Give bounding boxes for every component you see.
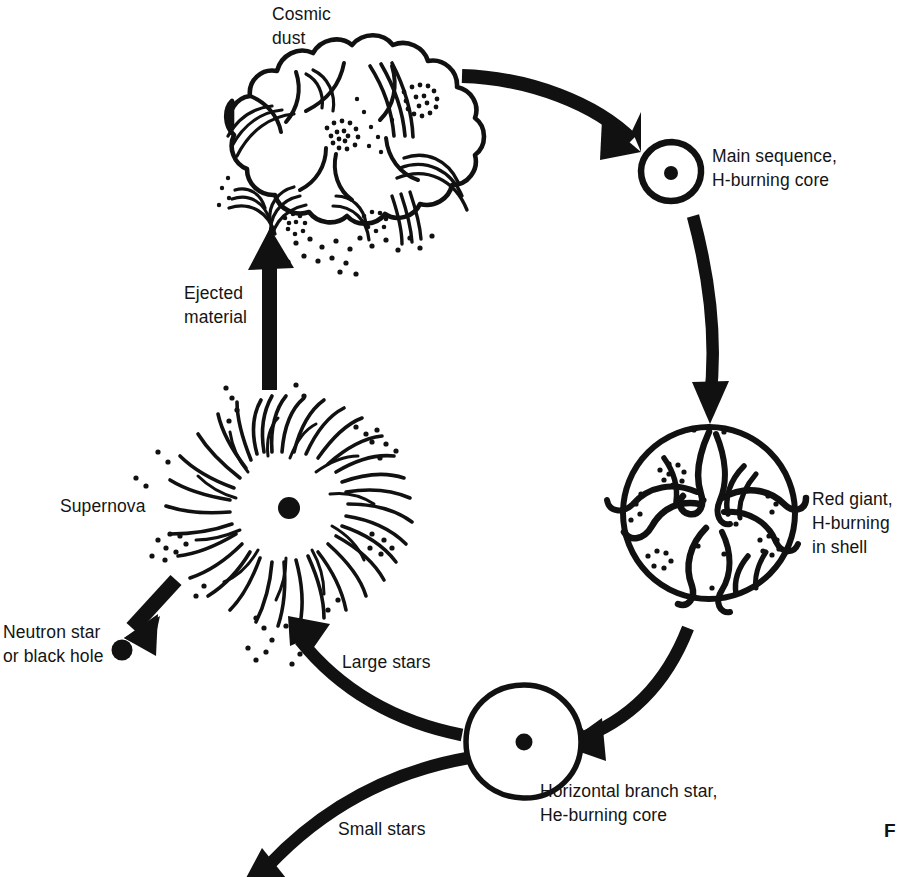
label-horizontal-branch: Horizontal branch star, He-burning core [540,779,717,827]
label-ejected-material: Ejected material [184,281,247,329]
main-sequence-star [641,142,701,201]
label-supernova: Supernova [60,494,146,518]
arrow-dust-to-main-sequence [462,76,641,160]
supernova-core-dot [278,497,300,519]
arrow-main-sequence-to-red-giant [692,216,729,424]
label-neutron-star: Neutron star or black hole [3,620,104,668]
arrow-supernova-to-neutron-star [124,580,176,656]
neutron-star-dot [112,640,133,661]
diagram-canvas [0,0,902,877]
arrow-large-stars-to-supernova [288,616,462,735]
supernova-burst [133,382,412,666]
label-cosmic-dust: Cosmic dust [272,2,331,50]
cosmic-dust-cloud [217,35,484,276]
horizontal-branch-core-dot [516,734,533,751]
label-large-stars: Large stars [342,650,431,674]
main-sequence-core-dot [664,166,678,180]
label-small-stars: Small stars [338,817,426,841]
label-red-giant: Red giant, H-burning in shell [812,487,893,559]
figure-caption-mark: F [884,820,896,842]
arrow-ejected-material [248,228,294,390]
label-main-sequence: Main sequence, H-burning core [712,144,837,192]
stellar-evolution-figure: Cosmic dust Main sequence, H-burning cor… [0,0,902,877]
red-giant-star [607,427,806,612]
